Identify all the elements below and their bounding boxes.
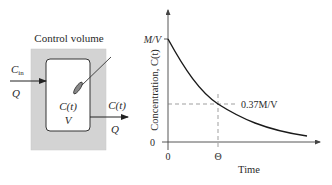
outflow-flow-label: Q bbox=[111, 123, 119, 135]
inflow-flow-label: Q bbox=[12, 87, 20, 99]
x-axis-label: Time bbox=[238, 164, 260, 175]
annotation-037: 0.37M/V bbox=[241, 99, 278, 110]
control-volume-diagram: Control volume Cin Q C(t) V C(t) Q bbox=[10, 32, 128, 150]
y-tick-label-zero: 0 bbox=[150, 137, 155, 148]
y-tick-label-top: M/V bbox=[143, 34, 163, 45]
concentration-chart: Concentration, C(t) M/V 0 0 Θ Time 0.37M… bbox=[143, 10, 320, 175]
y-axis-label: Concentration, C(t) bbox=[149, 49, 161, 131]
outflow-concentration-label: C(t) bbox=[108, 99, 126, 112]
control-volume-title: Control volume bbox=[34, 32, 103, 44]
diagram-canvas: Control volume Cin Q C(t) V C(t) Q bbox=[0, 0, 332, 185]
x-tick-label-zero: 0 bbox=[166, 151, 171, 162]
inflow-concentration-label: Cin bbox=[11, 63, 24, 77]
decay-curve bbox=[168, 39, 307, 136]
tank-concentration-label: C(t) bbox=[59, 100, 77, 113]
x-tick-label-theta: Θ bbox=[214, 151, 221, 162]
